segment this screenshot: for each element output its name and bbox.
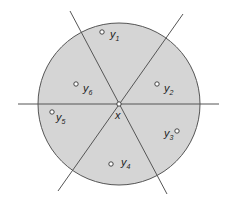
- center-point-x: [117, 102, 121, 106]
- center-label-x: x: [114, 109, 121, 121]
- point-y4: [109, 162, 113, 166]
- point-y5: [50, 110, 54, 114]
- point-y2: [155, 82, 159, 86]
- point-y3: [175, 129, 179, 133]
- point-y1: [100, 30, 104, 34]
- voronoi-sector-diagram: x y1y2y3y4y5y6: [0, 0, 229, 204]
- point-y6: [74, 82, 78, 86]
